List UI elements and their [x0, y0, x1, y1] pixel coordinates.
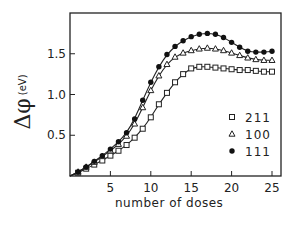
x-tick-label: 10 [143, 181, 158, 195]
series-211-point [261, 69, 266, 74]
y-axis-symbol: Δφ [10, 98, 35, 129]
series-111-point [148, 80, 153, 85]
series-211-point [221, 66, 226, 71]
series-111-point [124, 130, 129, 135]
series-211-point [116, 148, 121, 153]
x-axis-label: number of doses [115, 196, 223, 210]
series-211-point [237, 68, 242, 73]
legend-label: 100 [245, 128, 271, 142]
series-111-point [269, 49, 274, 54]
x-tick-label: 25 [264, 181, 279, 195]
series-211-point [205, 64, 210, 69]
series-111-point [92, 159, 97, 164]
y-tick-label: 0.5 [47, 128, 66, 142]
series-111-point [197, 31, 202, 36]
series-111-point [140, 98, 145, 103]
series-111-point [172, 44, 177, 49]
series-211-point [173, 80, 178, 85]
series-211-point [156, 102, 161, 107]
series-211-point [140, 126, 145, 131]
series-211-point [124, 143, 129, 148]
series-111-point [221, 35, 226, 40]
series-111-point [229, 40, 234, 45]
series-111-point [132, 116, 137, 121]
series-111-point [245, 49, 250, 54]
series-211-point [197, 64, 202, 69]
series-211-point [270, 69, 275, 74]
series-211-point [181, 72, 186, 77]
series-211-point [164, 90, 169, 95]
series-111-point [237, 45, 242, 50]
series-211-point [245, 68, 250, 73]
series-111-point [261, 49, 266, 54]
series-211-point [253, 68, 258, 73]
series-111-point [100, 153, 105, 158]
series-111-point [116, 139, 121, 144]
y-axis-label: Δφ (eV) [0, 82, 62, 122]
series-111-point [213, 31, 218, 36]
x-tick-label: 15 [184, 181, 199, 195]
legend-marker-111 [229, 148, 234, 153]
y-axis-unit: (eV) [17, 74, 28, 95]
x-tick-label: 5 [107, 181, 115, 195]
legend-marker-211 [230, 115, 235, 120]
series-111-point [75, 169, 80, 174]
series-211-point [213, 65, 218, 70]
series-111-point [108, 146, 113, 151]
series-111-point [156, 64, 161, 69]
series-211-point [132, 135, 137, 140]
series-111-point [83, 164, 88, 169]
legend-label: 111 [245, 145, 271, 159]
series-211-point [229, 67, 234, 72]
series-100-point [204, 45, 210, 50]
series-211-point [189, 66, 194, 71]
legend-label: 211 [245, 111, 271, 125]
series-111-point [205, 31, 210, 36]
series-211-point [148, 115, 153, 120]
series-111-point [189, 34, 194, 39]
x-tick-label: 20 [224, 181, 239, 195]
series-111-point [180, 38, 185, 43]
series-111-point [164, 52, 169, 57]
legend-marker-100 [229, 131, 235, 136]
series-111-point [253, 49, 258, 54]
y-tick-label: 1.5 [47, 47, 66, 61]
series-211-point [108, 153, 113, 158]
